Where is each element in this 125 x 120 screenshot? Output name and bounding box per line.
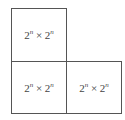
block-label: 2n × 2n bbox=[24, 82, 54, 94]
block-label: 2n × 2n bbox=[79, 82, 109, 94]
block-bottom-right: 2n × 2n bbox=[66, 61, 122, 114]
block-top-left: 2n × 2n bbox=[11, 8, 67, 62]
block-bottom-left: 2n × 2n bbox=[11, 61, 67, 114]
block-label: 2n × 2n bbox=[24, 29, 54, 41]
